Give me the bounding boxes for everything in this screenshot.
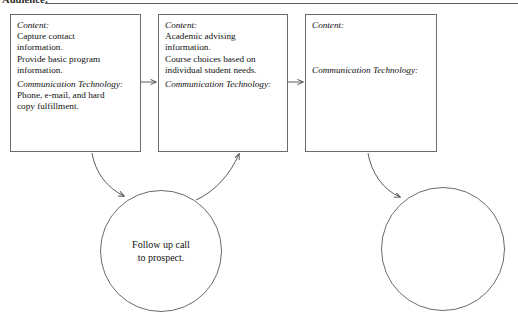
diagram-canvas: Audience: Content: Capture contact infor… (0, 0, 518, 321)
box-1-technology-line-1: Phone, e-mail, and hard (17, 90, 134, 101)
arrow-box3-to-circle2 (368, 153, 400, 197)
box-3-technology-label: Communication Technology: (312, 65, 430, 76)
circle-1-line-2: to prospect. (138, 252, 185, 263)
process-circle-1: Follow up call to prospect. (100, 190, 222, 312)
box-1-content-line-3: Provide basic program (17, 54, 134, 65)
arrow-box1-to-circle1 (92, 153, 124, 196)
box-1-content-line-2: information. (17, 42, 134, 53)
audience-heading: Audience: (0, 0, 518, 9)
box-3-spacer (312, 31, 430, 65)
box-2-content-line-4: individual student needs. (165, 65, 281, 76)
process-box-1: Content: Capture contact information. Pr… (10, 14, 141, 152)
box-1-content-line-1: Capture contact (17, 31, 134, 42)
box-1-technology-label: Communication Technology: (17, 79, 134, 90)
box-1-content-label: Content: (17, 20, 134, 31)
circle-1-text: Follow up call to prospect. (118, 238, 204, 264)
box-2-content-line-1: Academic advising (165, 31, 281, 42)
circle-1-line-1: Follow up call (132, 239, 190, 250)
box-1-technology-line-2: copy fulfillment. (17, 101, 134, 112)
heading-divider-rule (45, 3, 518, 4)
process-box-3: Content: Communication Technology: (305, 14, 437, 152)
process-box-2: Content: Academic advising information. … (158, 14, 288, 152)
arrow-circle1-to-box2 (196, 154, 239, 200)
process-circle-2 (381, 187, 505, 311)
box-2-content-line-2: information. (165, 42, 281, 53)
box-2-technology-label: Communication Technology: (165, 79, 281, 90)
box-3-content-label: Content: (312, 20, 430, 31)
box-2-content-line-3: Course choices based on (165, 54, 281, 65)
audience-heading-label: Audience: (2, 0, 48, 5)
box-1-content-line-4: information. (17, 65, 134, 76)
box-2-content-label: Content: (165, 20, 281, 31)
